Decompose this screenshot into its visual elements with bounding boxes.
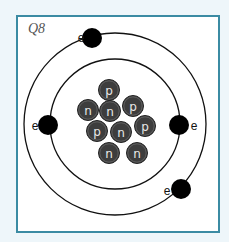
proton: p [99, 80, 120, 101]
electron-label: e [32, 119, 39, 133]
nucleon-label: n [84, 104, 92, 118]
proton: p [135, 116, 156, 137]
nucleon-label: n [105, 147, 113, 161]
atom-diagram: pnnpppnnn eeee [0, 0, 229, 242]
nucleon-label: p [141, 120, 149, 134]
proton: p [123, 96, 144, 117]
neutron: n [111, 122, 132, 143]
proton: p [87, 121, 108, 142]
nucleon-label: p [129, 100, 137, 114]
neutron: n [78, 100, 99, 121]
nucleus: pnnpppnnn [78, 80, 156, 164]
nucleon-label: n [106, 105, 114, 119]
electron: e [32, 115, 58, 135]
nucleon-label: p [93, 125, 101, 139]
nucleon-label: n [117, 126, 125, 140]
neutron: n [99, 143, 120, 164]
nucleon-label: n [133, 147, 141, 161]
electron-label: e [164, 184, 171, 198]
electron: e [169, 115, 198, 135]
electron: e [78, 28, 102, 48]
neutron: n [127, 143, 148, 164]
electron-label: e [78, 31, 85, 45]
electron: e [164, 179, 191, 199]
nucleon-label: p [105, 84, 113, 98]
neutron: n [100, 101, 121, 122]
electron-label: e [191, 119, 198, 133]
